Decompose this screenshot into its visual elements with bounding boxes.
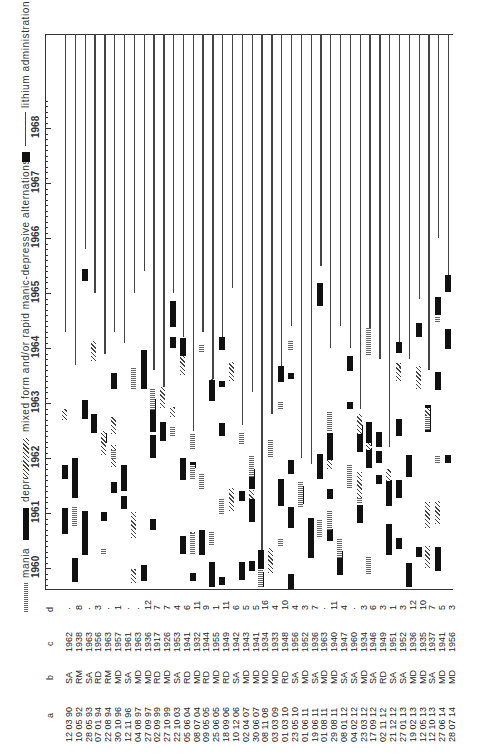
depression-episode [141,565,147,581]
depression-episode [288,460,294,474]
cell-b: RD [93,671,103,684]
cell-a: 10 05 92 [74,707,84,742]
cell-c: 1946 [368,632,378,652]
mania-episode [347,464,352,488]
axis-tick [45,480,48,481]
axis-tick [45,337,48,338]
lithium-line [65,34,66,332]
axis-tick [45,403,51,404]
axis-tick [45,194,48,195]
mixed-episode [160,387,165,408]
lithium-line [114,34,115,332]
depression-episode [101,512,107,521]
mixed-episode [366,443,371,450]
depression-episode [82,511,88,527]
column-header-b: b [45,675,55,680]
cell-d: 8 [74,605,84,610]
mixed-episode [416,366,421,389]
depression-episode [308,525,314,551]
cell-c: 1963 [133,632,143,652]
cell-a: 01 08 11 [319,708,329,742]
axis-tick [45,502,48,503]
cell-a: 02 11 12 [378,708,388,742]
mixed-episode [62,409,67,420]
lithium-line [104,34,105,354]
cell-a: 07 01 94 [93,707,103,742]
cell-d: 4 [339,605,349,610]
lithium-line [202,34,203,332]
axis-tick [45,387,48,388]
depression-episode [396,419,402,437]
cell-b: RM [103,670,113,684]
depression-episode [199,530,205,555]
cell-c: 1926 [162,632,172,652]
cell-b: MD [241,670,251,684]
cell-c: 1949 [378,632,388,652]
depression-episode [288,507,294,528]
lithium-line [360,34,361,409]
year-label: 1963 [30,391,41,413]
depression-episode [278,479,284,506]
depression-episode [180,536,186,554]
cell-d: 3 [398,605,408,610]
cell-a: 27 10 99 [162,707,172,742]
cell-d: 1 [211,605,221,610]
depression-episode [82,400,88,419]
axis-tick [45,563,48,564]
cell-b: MD [437,670,447,684]
axis-tick [45,442,48,443]
lithium-line [409,34,410,359]
mania-episode [298,482,303,507]
depression-episode [317,462,323,480]
depression-episode [121,465,127,491]
year-label: 1965 [30,281,41,303]
mania-episode [258,567,263,587]
cell-d: 11 [221,601,231,610]
axis-tick [45,574,48,575]
depression-episode [347,356,353,371]
cell-a: 19 02 13 [408,707,418,742]
cell-c: 1962 [64,632,74,652]
mania-episode [435,456,440,463]
cell-a: 22 08 94 [103,707,113,742]
cell-b: RD [201,671,211,684]
lithium-line [75,34,76,365]
axis-tick [45,464,48,465]
cell-b: MD [329,670,339,684]
axis-tick [45,431,48,432]
cell-b: MD [113,670,123,684]
depression-episode [82,533,88,554]
lithium-line [399,34,400,343]
axis-tick [45,447,48,448]
mania-episode [366,556,371,574]
cell-d: 3 [93,605,103,610]
lithium-line [232,34,233,288]
cell-a: 04 02 12 [349,707,359,742]
depression-episode [376,432,382,447]
cell-d: · [64,607,74,610]
cell-d: 6 [182,605,192,610]
mania-episode [131,368,136,390]
depression-episode [111,482,117,493]
axis-tick [45,167,48,168]
cell-a: 29 08 11 [329,708,339,742]
depression-episode [150,412,156,433]
cell-b: MD [260,670,270,684]
cell-c: 1943 [241,632,251,652]
depression-episode [170,301,176,326]
depression-episode [288,373,294,379]
lithium-swatch-icon [25,112,26,146]
lithium-line [85,34,86,249]
depression-episode [219,381,225,387]
lithium-line [144,34,145,271]
axis-tick [45,546,48,547]
cell-a: 12 10 13 [427,707,437,742]
depression-swatch-icon [23,508,29,540]
depression-episode [91,414,97,432]
depression-episode [141,370,147,388]
mixed-episode [425,546,430,567]
cell-d: 3 [300,605,310,610]
mania-episode [366,328,371,355]
depression-episode [416,323,422,337]
depression-episode [62,465,68,479]
